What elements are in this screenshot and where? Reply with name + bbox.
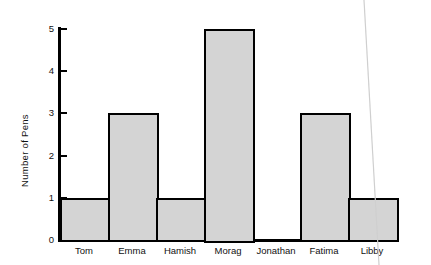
bar-chart: Number of Pens 543210 TomEmmaHamishMorag…	[0, 0, 431, 265]
bars-container	[0, 0, 431, 265]
x-axis-category-labels: TomEmmaHamishMoragJonathanFatimaLibby	[0, 244, 431, 260]
x-axis-category-label: Jonathan	[252, 244, 300, 257]
bar	[204, 29, 255, 243]
x-axis-category-label: Libby	[348, 244, 396, 257]
bar	[300, 113, 351, 242]
bar	[108, 113, 159, 242]
x-axis-category-label: Emma	[108, 244, 156, 257]
bar	[156, 198, 207, 243]
bar	[60, 198, 111, 243]
x-axis-category-label: Hamish	[156, 244, 204, 257]
x-axis-category-label: Morag	[204, 244, 252, 257]
x-axis-category-label: Tom	[60, 244, 108, 257]
x-axis-category-label: Fatima	[300, 244, 348, 257]
bar	[348, 198, 399, 243]
